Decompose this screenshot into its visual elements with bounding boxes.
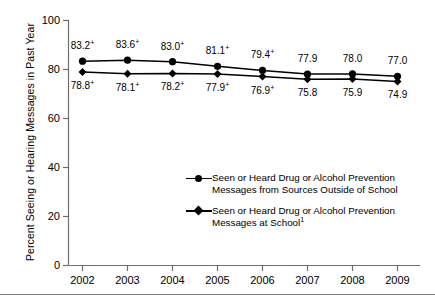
data-point-marker: [79, 68, 87, 76]
data-point-marker: [124, 57, 131, 64]
x-tick-label-2007: 2007: [286, 274, 330, 286]
x-tick-label-2002: 2002: [61, 274, 105, 286]
data-point-marker: [214, 63, 221, 70]
data-label-2004-series1: 78.2+: [151, 81, 195, 92]
data-point-marker: [394, 78, 402, 86]
x-tick-label-2003: 2003: [106, 274, 150, 286]
legend-footnote-marker: 1: [300, 216, 304, 223]
data-label-2002-series0: 83.2+: [61, 40, 105, 51]
data-label-2008-series0: 78.0: [331, 53, 375, 64]
legend-diamond-marker-icon: [186, 205, 212, 217]
data-point-marker: [169, 69, 177, 77]
data-label-2009-series1: 74.9: [376, 89, 420, 100]
legend-label-outside-school: Seen or Heard Drug or Alcohol Prevention…: [212, 172, 398, 197]
data-label-2007-series0: 77.9: [286, 53, 330, 64]
data-point-marker: [259, 73, 267, 81]
legend-circle-marker-icon: [186, 172, 212, 184]
data-point-marker: [214, 70, 222, 78]
data-label-2002-series1: 78.8+: [61, 80, 105, 91]
data-label-2006-series1: 76.9+: [241, 85, 285, 96]
data-point-marker: [79, 58, 86, 65]
data-point-marker: [304, 75, 312, 83]
data-label-2003-series1: 78.1+: [106, 82, 150, 93]
legend-item-at-school: Seen or Heard Drug or Alcohol Prevention…: [186, 205, 398, 230]
data-label-2003-series0: 83.6+: [106, 39, 150, 50]
x-tick-label-2006: 2006: [241, 274, 285, 286]
x-tick-label-2008: 2008: [331, 274, 375, 286]
data-point-marker: [349, 75, 357, 83]
x-tick-label-2009: 2009: [376, 274, 420, 286]
x-tick-label-2005: 2005: [196, 274, 240, 286]
data-point-marker: [169, 58, 176, 65]
data-label-2005-series1: 77.9+: [196, 82, 240, 93]
data-label-2007-series1: 75.8: [286, 87, 330, 98]
x-tick-label-2004: 2004: [151, 274, 195, 286]
chart-legend: Seen or Heard Drug or Alcohol Prevention…: [186, 172, 398, 238]
data-label-2006-series0: 79.4+: [241, 49, 285, 60]
legend-label-at-school: Seen or Heard Drug or Alcohol Prevention…: [212, 205, 395, 230]
data-label-2009-series0: 77.0: [376, 55, 420, 66]
bottom-divider: [0, 294, 435, 295]
data-label-2008-series1: 75.9: [331, 87, 375, 98]
legend-item-outside-school: Seen or Heard Drug or Alcohol Prevention…: [186, 172, 398, 197]
data-point-marker: [124, 70, 132, 78]
chart-figure: Percent Seeing or Hearing Messages in Pa…: [0, 0, 435, 308]
data-label-2005-series0: 81.1+: [196, 45, 240, 56]
data-label-2004-series0: 83.0+: [151, 41, 195, 52]
